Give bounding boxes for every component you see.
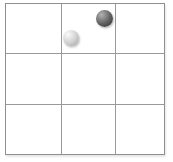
diagram-stage <box>0 0 173 162</box>
grid-row-line-2 <box>6 104 164 105</box>
dark-marble <box>96 10 113 27</box>
grid-column-line-1 <box>61 4 62 154</box>
grid-row-line-1 <box>6 53 164 54</box>
grid-column-line-2 <box>115 4 116 154</box>
grid-board <box>5 3 165 155</box>
